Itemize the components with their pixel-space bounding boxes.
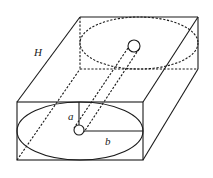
- top-left-depth-edge: [17, 17, 80, 102]
- front-hole-circle: [74, 125, 84, 135]
- bore-upper-line: [74, 48, 128, 128]
- bore-lower-line: [84, 49, 139, 132]
- label-radius-b: b: [105, 135, 111, 147]
- label-radius-a: a: [68, 110, 74, 122]
- label-height-H: H: [33, 46, 43, 58]
- top-right-depth-edge: [143, 17, 198, 102]
- rectangular-block-with-cylindrical-bore-diagram: H a b: [0, 0, 213, 178]
- bottom-right-depth-edge: [143, 69, 198, 160]
